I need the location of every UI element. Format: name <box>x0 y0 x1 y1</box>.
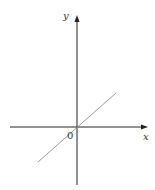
origin-label: 0 <box>67 130 73 141</box>
axes-svg <box>0 0 155 190</box>
coordinate-diagram: y x 0 <box>0 0 155 190</box>
x-axis-arrow-icon <box>141 125 148 130</box>
y-axis-arrow-icon <box>75 15 80 22</box>
x-axis-label: x <box>143 131 149 142</box>
y-axis-label: y <box>63 10 69 21</box>
